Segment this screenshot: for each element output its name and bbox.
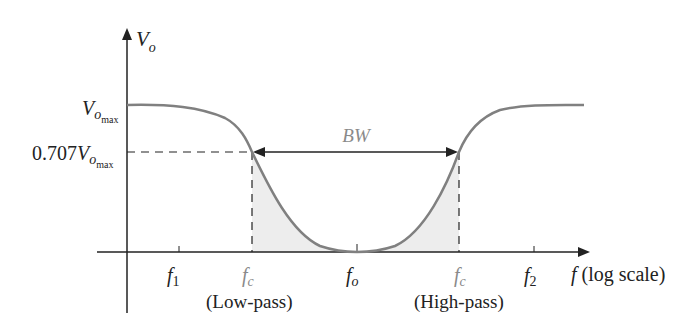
x-axis-label: f (log scale) — [571, 263, 665, 286]
y-axis-label: Vo — [136, 27, 156, 55]
high-pass-label: (High-pass) — [414, 291, 504, 313]
f1-label: f1 — [167, 264, 180, 289]
fo-label: fo — [346, 264, 359, 289]
low-pass-label: (Low-pass) — [206, 291, 293, 313]
band-stop-response-diagram: Vo Vomax 0.707Vomax BW f1 fc fo fc f2 f … — [0, 0, 697, 330]
x-axis-arrow-icon — [578, 247, 590, 257]
vomax-label: Vomax — [82, 97, 118, 125]
f2-label: f2 — [524, 264, 537, 289]
y-axis-arrow-icon — [122, 28, 132, 40]
fc-right-label: fc — [454, 264, 467, 289]
bw-label: BW — [342, 125, 372, 146]
fc-left-label: fc — [242, 264, 255, 289]
bw-arrow-right-icon — [446, 147, 458, 157]
v707-label: 0.707Vomax — [32, 142, 113, 170]
